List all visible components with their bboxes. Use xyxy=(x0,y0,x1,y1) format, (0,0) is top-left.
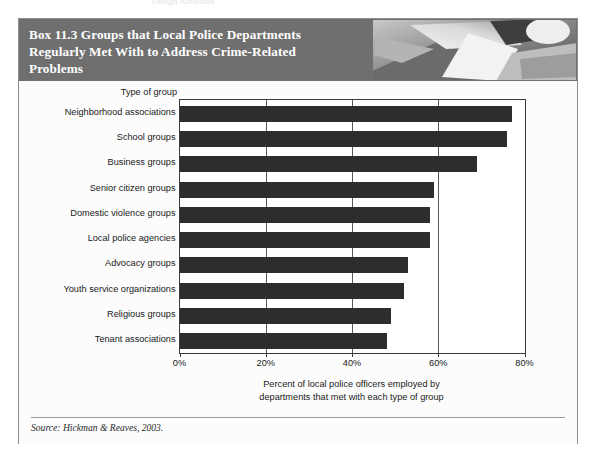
bar xyxy=(180,283,404,299)
bar-row: Advocacy groups xyxy=(180,257,525,273)
bar-row: Tenant associations xyxy=(180,333,525,349)
bar-row: Neighborhood associations xyxy=(180,106,525,122)
bar xyxy=(180,182,434,198)
x-tick xyxy=(438,353,439,357)
x-tick-label: 80% xyxy=(515,358,533,368)
x-tick-label: 0% xyxy=(173,358,186,368)
bar-category-label: Business groups xyxy=(108,157,176,167)
bar-category-label: Senior citizen groups xyxy=(90,183,176,193)
bar-category-label: Youth service organizations xyxy=(63,284,175,294)
box-title: Box 11.3 Groups that Local Police Depart… xyxy=(19,19,372,81)
bar-category-label: Religious groups xyxy=(107,309,175,319)
bar-category-label: Tenant associations xyxy=(95,334,176,344)
bar-row: Domestic violence groups xyxy=(180,207,525,223)
bar-row: School groups xyxy=(180,131,525,147)
x-tick xyxy=(180,353,181,357)
source-divider xyxy=(31,417,565,418)
police-photo xyxy=(372,19,577,81)
bar xyxy=(180,333,387,349)
x-tick-label: 40% xyxy=(343,358,361,368)
bar-row: Business groups xyxy=(180,156,525,172)
bar-category-label: Domestic violence groups xyxy=(70,208,175,218)
bar-row: Local police agencies xyxy=(180,232,525,248)
bar-row: Senior citizen groups xyxy=(180,182,525,198)
bar-row: Religious groups xyxy=(180,308,525,324)
scan-artifact-text: Design Activities xyxy=(152,0,292,6)
box-header: Box 11.3 Groups that Local Police Depart… xyxy=(19,19,577,81)
bar xyxy=(180,156,478,172)
plot-frame: Neighborhood associationsSchool groupsBu… xyxy=(179,99,526,354)
x-tick-label: 60% xyxy=(429,358,447,368)
bar-category-label: Neighborhood associations xyxy=(65,107,176,117)
bar xyxy=(180,232,430,248)
bar xyxy=(180,131,508,147)
source-note: Source: Hickman & Reaves, 2003. xyxy=(31,422,163,433)
y-axis-title: Type of group xyxy=(19,87,177,97)
x-axis-title: Percent of local police officers employe… xyxy=(178,378,525,403)
chart-area: Type of group Neighborhood associationsS… xyxy=(19,81,577,444)
bar xyxy=(180,308,391,324)
x-tick xyxy=(525,353,526,357)
x-tick-label: 20% xyxy=(257,358,275,368)
x-tick xyxy=(352,353,353,357)
bar-row: Youth service organizations xyxy=(180,283,525,299)
bar xyxy=(180,207,430,223)
x-tick xyxy=(266,353,267,357)
bar-category-label: School groups xyxy=(117,132,176,142)
bar xyxy=(180,106,512,122)
bar-category-label: Advocacy groups xyxy=(105,258,175,268)
textbook-box: Box 11.3 Groups that Local Police Depart… xyxy=(18,18,578,444)
bar-category-label: Local police agencies xyxy=(88,233,176,243)
bar xyxy=(180,257,409,273)
